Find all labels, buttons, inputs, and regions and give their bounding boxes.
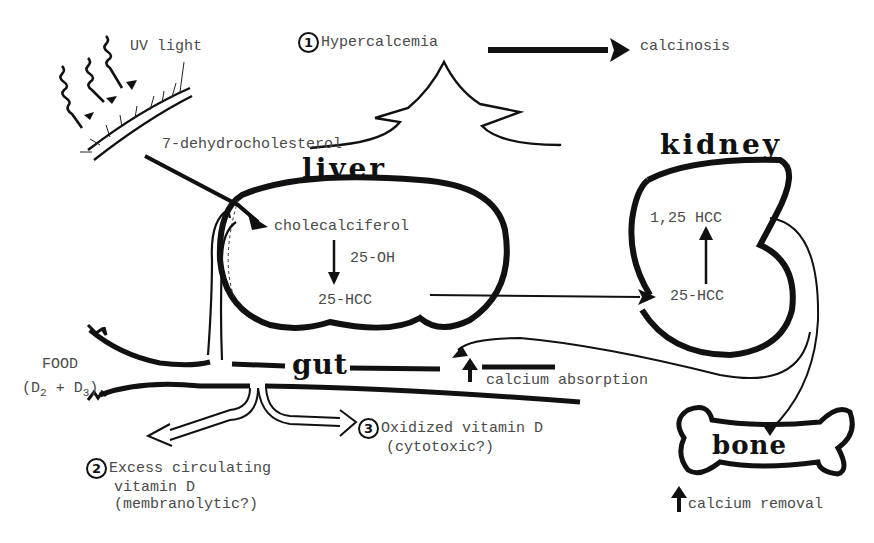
calcium-absorption-label: calcium absorption <box>486 372 648 389</box>
bone-title: bone <box>712 430 787 460</box>
precursor-label: 7-dehydrocholesterol <box>162 136 342 153</box>
food-sources-label: (D2 + D3) <box>22 380 98 400</box>
calcinosis-arrowhead <box>610 38 630 62</box>
kidney-25-hcc-label: 25-HCC <box>670 288 724 305</box>
gut-title: gut <box>292 348 348 381</box>
excess-vitamin-d-label: 2Excess circulating vitamin D (membranol… <box>86 458 271 514</box>
25-oh-label: 25-OH <box>350 250 395 267</box>
uv-arrowhead-1 <box>84 112 94 120</box>
hypercalcemia-text: Hypercalcemia <box>321 34 438 51</box>
uv-arrowhead-3 <box>126 80 137 90</box>
number-1-badge: 1 <box>298 32 319 53</box>
kidney-title: kidney <box>660 128 782 161</box>
excess-vitamin-d-arrow <box>148 388 258 446</box>
liver-title: liver <box>302 152 387 185</box>
calcinosis-label: calcinosis <box>640 38 730 55</box>
kidney-125-hcc-label: 1,25 HCC <box>650 210 722 227</box>
liver-25-hcc-label: 25-HCC <box>318 292 372 309</box>
food-label: FOOD <box>42 356 78 373</box>
kidney-outline <box>631 160 792 355</box>
number-3-badge: 3 <box>358 418 379 439</box>
uv-light-label: UV light <box>130 38 202 55</box>
hypercalcemia-spike <box>310 62 560 148</box>
oxidized-vitamin-d-label: 3Oxidized vitamin D (cytotoxic?) <box>358 418 543 456</box>
oxidized-vitamin-d-arrow <box>258 388 356 436</box>
calcium-removal-label: calcium removal <box>688 496 823 513</box>
cholecalciferol-label: cholecalciferol <box>274 218 409 235</box>
number-2-badge: 2 <box>86 458 107 479</box>
uv-arrowhead-2 <box>106 96 117 104</box>
hypercalcemia-label: 1Hypercalcemia <box>298 32 438 53</box>
